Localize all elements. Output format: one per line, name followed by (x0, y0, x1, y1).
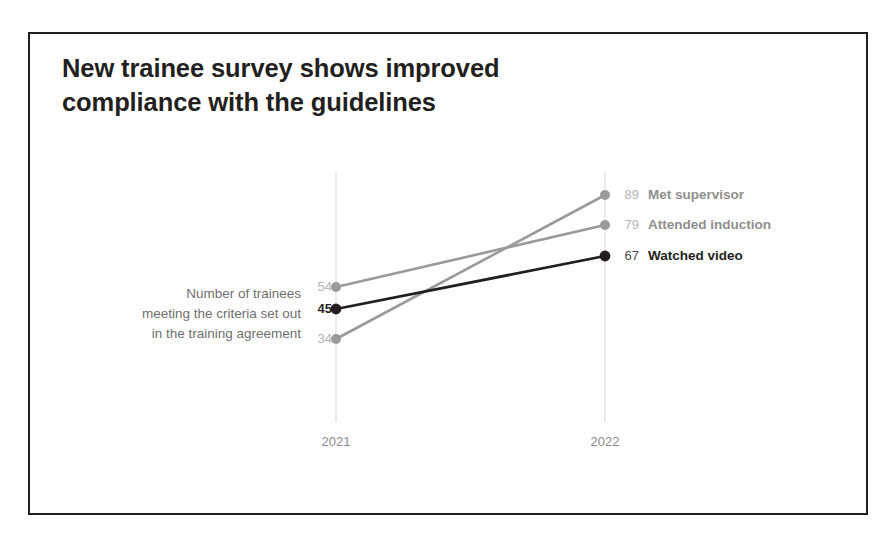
series-line-met-supervisor (336, 195, 605, 339)
legend-item-attended-induction[interactable]: 79 Attended induction (617, 217, 771, 232)
data-point-watched-video-2022[interactable] (600, 251, 611, 262)
value-label-attended-induction-2021: 54 (292, 279, 332, 294)
value-label-watched-video-2021: 45 (292, 301, 332, 316)
y-axis-label: Number of trainees meeting the criteria … (71, 284, 301, 344)
legend-value-attended-induction: 79 (617, 217, 639, 232)
slide-frame: New trainee survey shows improved compli… (28, 32, 868, 515)
data-point-met-supervisor-2022[interactable] (600, 190, 610, 200)
series-line-attended-induction (336, 225, 605, 287)
series-line-watched-video (336, 256, 605, 309)
data-point-attended-induction-2022[interactable] (600, 220, 610, 230)
legend-value-met-supervisor: 89 (617, 187, 639, 202)
data-point-attended-induction-2021[interactable] (331, 282, 341, 292)
value-label-met-supervisor-2021: 34 (292, 331, 332, 346)
data-point-watched-video-2021[interactable] (331, 304, 342, 315)
legend-item-met-supervisor[interactable]: 89 Met supervisor (617, 187, 744, 202)
chart-plot-area: Number of trainees meeting the criteria … (30, 34, 870, 517)
line-chart-svg (30, 34, 870, 517)
legend-label-met-supervisor: Met supervisor (648, 187, 744, 202)
legend-item-watched-video[interactable]: 67 Watched video (617, 248, 743, 263)
legend-label-watched-video: Watched video (648, 248, 743, 263)
data-point-met-supervisor-2021[interactable] (331, 334, 341, 344)
legend-value-watched-video: 67 (617, 248, 639, 263)
legend-label-attended-induction: Attended induction (648, 217, 771, 232)
x-tick-2021: 2021 (301, 434, 371, 449)
x-tick-2022: 2022 (570, 434, 640, 449)
